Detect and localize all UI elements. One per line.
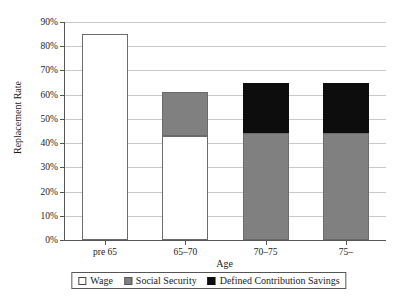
x-tick-mark	[266, 240, 267, 245]
y-tick-label: 40%	[41, 138, 58, 148]
legend-swatch-social-security-icon	[124, 277, 132, 285]
y-tick-label: 80%	[41, 41, 58, 51]
y-gridline	[65, 22, 386, 23]
y-tick-label: 90%	[41, 17, 58, 27]
x-tick-label: 75–	[339, 247, 353, 257]
x-tick-mark	[185, 240, 186, 245]
bar-segment[interactable]	[82, 34, 128, 240]
bar-segment[interactable]	[243, 83, 289, 134]
legend-item-defined-contribution-savings: Defined Contribution Savings	[208, 275, 340, 286]
y-tick-mark	[60, 46, 65, 47]
legend-label-wage: Wage	[90, 275, 113, 286]
bar-group[interactable]	[243, 83, 289, 240]
y-tick-mark	[60, 192, 65, 193]
bar-group[interactable]	[162, 92, 208, 240]
legend-swatch-defined-contribution-savings-icon	[208, 277, 216, 285]
bar-group[interactable]	[323, 83, 369, 240]
y-tick-mark	[60, 143, 65, 144]
y-tick-label: 30%	[41, 162, 58, 172]
y-tick-mark	[60, 70, 65, 71]
y-tick-label: 50%	[41, 114, 58, 124]
x-tick-label: pre 65	[93, 247, 117, 257]
legend-label-defined-contribution-savings: Defined Contribution Savings	[220, 275, 340, 286]
x-tick-label: 65–70	[174, 247, 198, 257]
y-tick-label: 20%	[41, 187, 58, 197]
x-tick-mark	[346, 240, 347, 245]
y-tick-label: 60%	[41, 90, 58, 100]
y-tick-mark	[60, 119, 65, 120]
bar-group[interactable]	[82, 34, 128, 240]
bar-segment[interactable]	[243, 133, 289, 240]
bar-chart-figure: Replacement Rate 0%10%20%30%40%50%60%70%…	[0, 0, 418, 303]
y-tick-label: 70%	[41, 65, 58, 75]
legend-label-social-security: Social Security	[136, 275, 197, 286]
y-tick-mark	[60, 167, 65, 168]
legend-item-wage: Wage	[78, 275, 113, 286]
x-tick-label: 70–75	[254, 247, 278, 257]
y-tick-label: 0%	[45, 235, 58, 245]
chart-legend: Wage Social Security Defined Contributio…	[71, 272, 346, 289]
bar-segment[interactable]	[162, 92, 208, 136]
x-axis-title: Age	[64, 258, 385, 269]
bar-segment[interactable]	[323, 133, 369, 240]
legend-swatch-wage-icon	[78, 277, 86, 285]
y-tick-mark	[60, 216, 65, 217]
y-tick-label: 10%	[41, 211, 58, 221]
bar-segment[interactable]	[323, 83, 369, 134]
y-tick-mark	[60, 95, 65, 96]
plot-area: 0%10%20%30%40%50%60%70%80%90%pre 6565–70…	[64, 22, 386, 241]
y-axis-title: Replacement Rate	[12, 53, 23, 183]
legend-item-social-security: Social Security	[124, 275, 197, 286]
x-tick-mark	[105, 240, 106, 245]
y-tick-mark	[60, 22, 65, 23]
bar-segment[interactable]	[162, 136, 208, 240]
y-tick-mark	[60, 240, 65, 241]
